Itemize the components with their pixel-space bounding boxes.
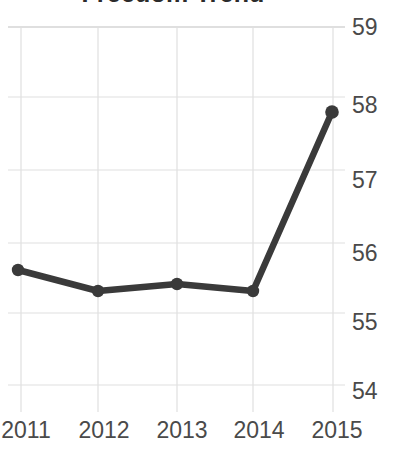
y-axis-labels: 59 58 57 56 55 54 xyxy=(352,0,406,450)
y-axis-tick: 57 xyxy=(352,169,392,192)
plot-svg xyxy=(0,0,406,450)
x-axis-tick: 2013 xyxy=(147,418,217,443)
y-axis-tick: 54 xyxy=(352,380,392,403)
x-axis-tick: 2012 xyxy=(69,418,139,443)
data-line xyxy=(18,112,332,291)
data-point xyxy=(12,264,24,276)
data-point xyxy=(171,278,183,290)
y-axis-tick: 55 xyxy=(352,311,392,334)
line-chart: Freedom Trend xyxy=(0,0,406,450)
x-axis-tick: 2011 xyxy=(0,418,61,443)
x-axis-labels: 2011 2012 2013 2014 2015 xyxy=(0,418,360,450)
plot-area xyxy=(0,0,406,450)
x-axis-tick: 2014 xyxy=(224,418,294,443)
x-axis-tick: 2015 xyxy=(302,418,372,443)
y-axis-tick: 56 xyxy=(352,242,392,265)
data-point xyxy=(247,285,259,297)
y-axis-tick: 58 xyxy=(352,94,392,117)
data-point xyxy=(325,105,339,119)
data-point xyxy=(92,285,104,297)
y-axis-tick: 59 xyxy=(352,16,392,39)
